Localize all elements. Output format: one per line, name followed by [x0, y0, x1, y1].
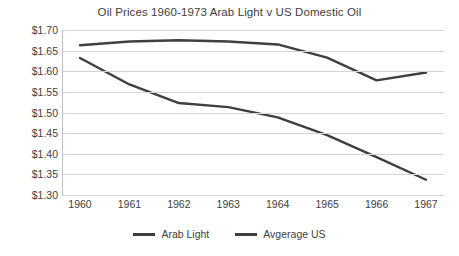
- legend-label: Arab Light: [161, 228, 209, 240]
- y-axis-line: [62, 30, 63, 195]
- x-tick-label: 1964: [266, 198, 289, 210]
- chart-title: Oil Prices 1960-1973 Arab Light v US Dom…: [0, 6, 459, 18]
- y-tick-label: $1.30: [6, 189, 58, 201]
- x-tick-label: 1967: [414, 198, 437, 210]
- gridline: [62, 92, 444, 93]
- y-tick-label: $1.65: [6, 45, 58, 57]
- y-tick-label: $1.70: [6, 24, 58, 36]
- legend-item: Avgerage US: [235, 228, 325, 240]
- y-tick-label: $1.50: [6, 107, 58, 119]
- legend-swatch-icon: [133, 233, 155, 236]
- legend-item: Arab Light: [133, 228, 209, 240]
- x-tick-label: 1960: [68, 198, 91, 210]
- x-tick-label: 1966: [365, 198, 388, 210]
- x-tick-label: 1965: [315, 198, 338, 210]
- gridline: [62, 174, 444, 175]
- gridline: [62, 71, 444, 72]
- y-tick-label: $1.55: [6, 86, 58, 98]
- series-line: [80, 40, 426, 80]
- gridline: [62, 30, 444, 31]
- plot-area: [62, 30, 444, 195]
- chart-container: Oil Prices 1960-1973 Arab Light v US Dom…: [0, 0, 459, 256]
- y-tick-label: $1.60: [6, 65, 58, 77]
- x-axis-tick-labels: 19601961196219631964196519661967: [62, 198, 444, 214]
- gridline: [62, 51, 444, 52]
- gridline: [62, 154, 444, 155]
- y-tick-label: $1.35: [6, 168, 58, 180]
- y-tick-label: $1.45: [6, 127, 58, 139]
- legend-swatch-icon: [235, 233, 257, 236]
- legend-label: Avgerage US: [263, 228, 325, 240]
- gridline: [62, 195, 444, 196]
- gridline: [62, 113, 444, 114]
- x-tick-label: 1963: [217, 198, 240, 210]
- x-tick-label: 1962: [167, 198, 190, 210]
- y-axis-tick-labels: $1.30$1.35$1.40$1.45$1.50$1.55$1.60$1.65…: [0, 30, 58, 195]
- series-line: [80, 58, 426, 180]
- gridline: [62, 133, 444, 134]
- chart-legend: Arab LightAvgerage US: [0, 228, 459, 240]
- y-tick-label: $1.40: [6, 148, 58, 160]
- x-tick-label: 1961: [118, 198, 141, 210]
